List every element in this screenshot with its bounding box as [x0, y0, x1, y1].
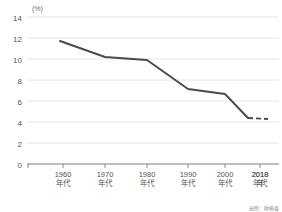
x-tick-2000-suffix: 年代 [205, 179, 245, 188]
x-tick-2018-year: 2018 [252, 170, 269, 179]
x-tick-2000-year: 2000 [217, 170, 234, 179]
line-chart: (%) 14 12 10 8 6 4 2 0 1960 [0, 0, 282, 212]
gridlines [27, 17, 279, 143]
x-tick-1980-year: 1980 [139, 170, 156, 179]
x-tick-1960: 1960 年代 [43, 170, 83, 188]
x-tick-1960-year: 1960 [55, 170, 72, 179]
x-tick-1970-suffix: 年代 [85, 179, 125, 188]
x-tick-2000: 2000 年代 [205, 170, 245, 188]
x-tick-1980: 1980 年代 [127, 170, 167, 188]
x-tick-1990: 1990 年代 [168, 170, 208, 188]
source-attribution: 出所：財務省 [249, 204, 279, 211]
x-tick-1990-suffix: 年代 [168, 179, 208, 188]
x-axis-ticks [28, 164, 260, 168]
x-tick-1960-suffix: 年代 [43, 179, 83, 188]
x-tick-2018: 2018 年 [240, 170, 280, 188]
x-tick-1970: 1970 年代 [85, 170, 125, 188]
x-tick-1980-suffix: 年代 [127, 179, 167, 188]
x-tick-1990-year: 1990 [180, 170, 197, 179]
x-tick-1970-year: 1970 [97, 170, 114, 179]
x-tick-2018-suffix: 年 [240, 179, 280, 188]
data-line-dashed-projection [248, 118, 268, 119]
